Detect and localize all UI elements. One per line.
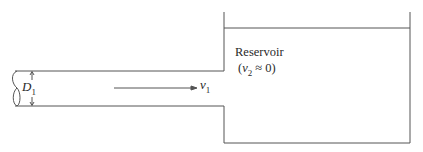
reservoir-condition: (v2 ≈ 0) xyxy=(238,61,276,78)
reservoir-title: Reservoir xyxy=(235,45,284,60)
diameter-label: D1 xyxy=(22,79,36,97)
velocity-label: v1 xyxy=(200,77,210,95)
diagram-canvas xyxy=(0,0,423,152)
pipe-break-icon xyxy=(12,71,20,106)
